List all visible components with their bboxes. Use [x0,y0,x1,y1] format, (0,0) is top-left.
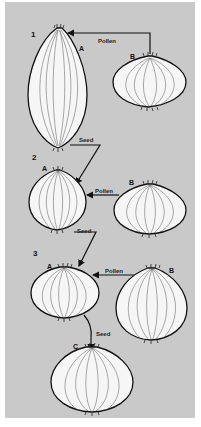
plant-label-1b: B [130,53,135,60]
onion-1a [28,24,87,152]
onion-2b [114,180,186,238]
stage-2: 2 A B Pollen Seed [29,153,186,266]
onion-1b [113,52,186,111]
stage-label-2: 2 [32,153,37,162]
stage-3: 3 A B Pollen Seed [31,249,187,350]
seed-label-2: Seed [77,228,92,234]
seed-arrow-2 [74,232,96,266]
plant-label-1a: A [79,45,84,52]
seed-label-1: Seed [79,137,94,143]
stage-1: 1 A B Pollen Seed [28,24,186,184]
onion-c [51,343,133,416]
onion-3a [31,263,99,322]
plant-label-2a: A [42,165,47,172]
pollen-label-2: Pollen [95,188,113,194]
plant-label-3a: A [47,263,52,270]
result-c: C [51,343,133,416]
plant-label-2b: B [129,179,134,186]
onion-breeding-diagram: 1 A B Pollen Seed [0,0,201,427]
plant-label-3b: B [169,267,174,274]
onion-2a [29,166,86,234]
pollen-label-3: Pollen [105,268,123,274]
onion-3b [116,264,187,344]
plant-label-c: C [73,343,78,350]
pollen-label-1: Pollen [98,38,116,44]
seed-label-3: Seed [96,331,111,337]
stage-label-3: 3 [33,249,38,258]
stage-label-1: 1 [31,30,36,39]
